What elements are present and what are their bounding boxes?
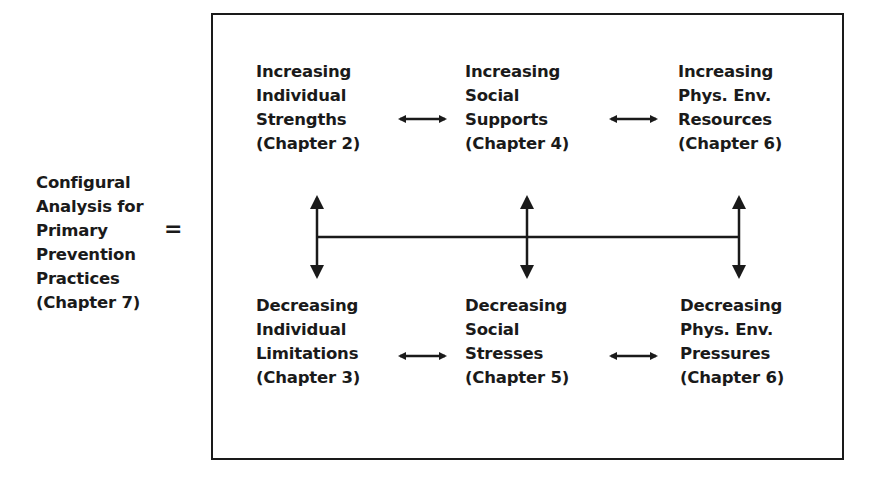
connector-arrows (0, 0, 878, 486)
